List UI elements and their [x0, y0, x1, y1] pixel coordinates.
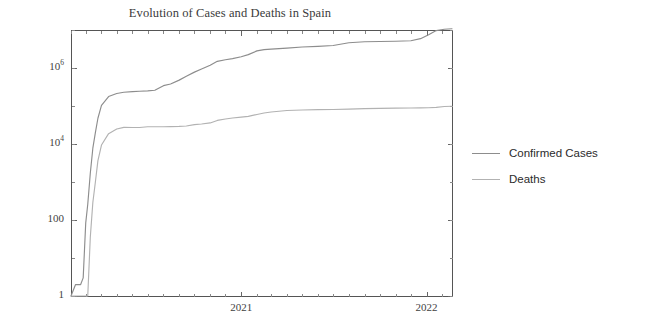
plot-frame: [72, 31, 453, 297]
y-tick-label-0: 1: [18, 288, 64, 300]
legend-label-deaths: Deaths: [509, 173, 545, 185]
y-tick-label-2: 104: [18, 136, 64, 148]
chart-figure: Evolution of Cases and Deaths in Spain 1…: [0, 0, 647, 329]
legend-label-confirmed-cases: Confirmed Cases: [509, 147, 598, 159]
legend-swatch-deaths: [472, 179, 500, 180]
y-tick-label-3: 106: [18, 60, 64, 72]
x-tick-label-2021: 2021: [223, 301, 259, 313]
legend-item-deaths: Deaths: [472, 166, 598, 192]
series-line-confirmed-cases: [71, 29, 452, 296]
legend-item-confirmed-cases: Confirmed Cases: [472, 140, 598, 166]
chart-legend: Confirmed Cases Deaths: [472, 140, 598, 192]
series-line-deaths: [71, 106, 452, 296]
y-tick-label-1: 100: [18, 212, 64, 224]
legend-swatch-confirmed-cases: [472, 153, 500, 154]
x-tick-label-2022: 2022: [409, 301, 445, 313]
